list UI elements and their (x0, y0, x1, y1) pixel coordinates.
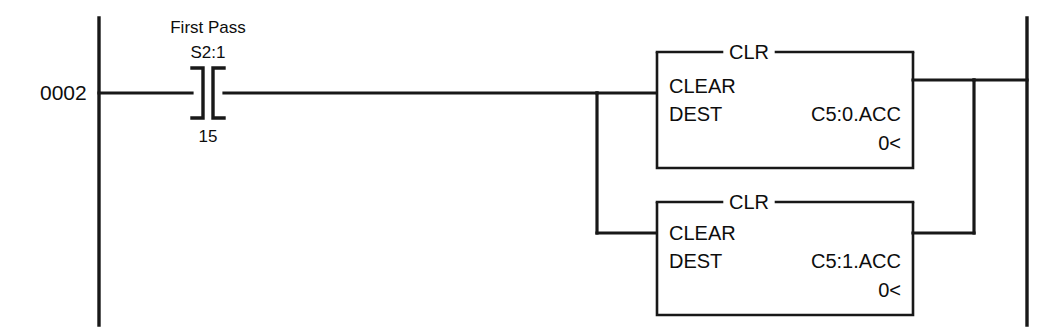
block-1-operand-label: DEST (669, 103, 722, 125)
contact-address-label: S2:1 (191, 43, 226, 62)
block-1-instruction: CLEAR (669, 75, 736, 97)
contact-right-bracket (213, 68, 224, 118)
block-2-operand-label: DEST (669, 250, 722, 272)
instruction-block-clr-2[interactable]: CLR CLEAR DEST C5:1.ACC 0< (657, 191, 913, 315)
ladder-logic-diagram: 0002 First Pass S2:1 15 CLR (0, 0, 1056, 331)
rung-number: 0002 (40, 81, 87, 104)
contact-xic-first-pass[interactable] (192, 68, 224, 118)
block-1-title: CLR (729, 41, 769, 63)
block-1-operand-value: C5:0.ACC (811, 103, 901, 125)
block-2-title: CLR (729, 191, 769, 213)
contact-description-label: First Pass (170, 18, 246, 37)
block-2-current-value: 0< (878, 279, 901, 301)
contact-bit-label: 15 (199, 127, 218, 146)
ladder-diagram-canvas: 0002 First Pass S2:1 15 CLR (0, 0, 1056, 331)
block-1-current-value: 0< (878, 132, 901, 154)
block-2-instruction: CLEAR (669, 222, 736, 244)
contact-left-bracket (192, 68, 203, 118)
block-2-operand-value: C5:1.ACC (811, 250, 901, 272)
instruction-block-clr-1[interactable]: CLR CLEAR DEST C5:0.ACC 0< (657, 41, 913, 168)
